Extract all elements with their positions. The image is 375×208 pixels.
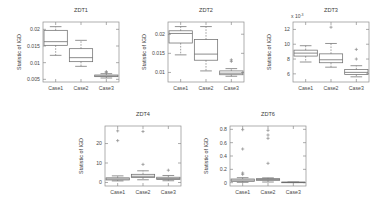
panel-zdt2: ZDT20.010.0150.02Case1Case2Case3Statisti… (125, 0, 250, 104)
y-tick-label: 8 (287, 56, 290, 62)
y-axis-title: Statistic of IGD (266, 34, 272, 70)
x-tick-label: Case1 (48, 85, 63, 91)
y-tick-label: 0.4 (220, 153, 227, 159)
y-tick-label: 0.015 (152, 50, 165, 56)
y-axis-title: Statistic of IGD (203, 138, 209, 174)
x-tick-label: Case1 (298, 85, 313, 91)
panel-zdt1: ZDT10.0050.010.0150.02Case1Case2Case3Sta… (0, 0, 125, 104)
x-tick-label: Case2 (324, 85, 339, 91)
x-tick-label: Case1 (110, 189, 125, 195)
y-tick-label: 10 (96, 160, 102, 166)
y-tick-label: 0.02 (155, 31, 165, 37)
y-tick-label: 6 (287, 71, 290, 77)
panel-title: ZDT1 (74, 7, 88, 13)
panel-zdt4: ZDT401020Case1Case2Case3Statistic of IGD (62, 104, 187, 208)
boxplot-box (282, 182, 305, 183)
x-tick-label: Case3 (224, 85, 239, 91)
panel-title: ZDT3 (324, 7, 338, 13)
y-tick-label: 0.6 (220, 140, 227, 146)
y-tick-label: 0.2 (220, 166, 227, 172)
x-tick-label: Case2 (199, 85, 214, 91)
x-tick-label: Case2 (136, 189, 151, 195)
panel-zdt3: ZDT3x 10-3681012Case1Case2Case3Statistic… (250, 0, 375, 104)
x-tick-label: Case3 (286, 189, 301, 195)
plot-frame (43, 22, 119, 82)
y-tick-label: 0 (99, 179, 102, 185)
x-tick-label: Case3 (349, 85, 364, 91)
y-tick-label: 0.01 (30, 60, 40, 66)
y-tick-label: 10 (284, 41, 290, 47)
y-axis-title: Statistic of IGD (78, 138, 84, 174)
x-tick-label: Case3 (99, 85, 114, 91)
axis-exponent-label: x 10-3 (291, 13, 304, 19)
y-tick-label: 20 (96, 140, 102, 146)
y-tick-label: 0.01 (155, 69, 165, 75)
panel-title: ZDT2 (199, 7, 213, 13)
plot-frame (293, 22, 369, 82)
x-tick-label: Case2 (74, 85, 89, 91)
y-tick-label: 0.8 (220, 126, 227, 132)
panel-zdt6: ZDT600.20.40.60.8Case1Case2Case3Statisti… (187, 104, 312, 208)
svg-text:x 10-3: x 10-3 (291, 13, 304, 19)
y-tick-label: 0.005 (27, 76, 40, 82)
x-tick-label: Case1 (173, 85, 188, 91)
x-tick-label: Case1 (235, 189, 250, 195)
y-tick-label: 0 (224, 180, 227, 186)
x-tick-label: Case2 (261, 189, 276, 195)
y-tick-label: 0.02 (30, 26, 40, 32)
y-axis-title: Statistic of IGD (16, 34, 22, 70)
boxplot-figure: ZDT10.0050.010.0150.02Case1Case2Case3Sta… (0, 0, 375, 208)
panel-title: ZDT6 (261, 111, 275, 117)
y-tick-label: 12 (284, 26, 290, 32)
x-tick-label: Case3 (161, 189, 176, 195)
y-tick-label: 0.015 (27, 43, 40, 49)
y-axis-title: Statistic of IGD (141, 34, 147, 70)
panel-title: ZDT4 (136, 111, 150, 117)
